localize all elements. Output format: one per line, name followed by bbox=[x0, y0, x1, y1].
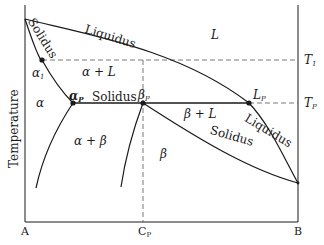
alpha-solvus-curve bbox=[36, 103, 73, 188]
peritectic-solidus-label: Solidus bbox=[92, 91, 137, 103]
alpha-plus-liquid-label: α + L bbox=[82, 66, 116, 78]
betaP-label: βP bbox=[138, 89, 150, 103]
alpha-plus-beta-label: α + β bbox=[74, 135, 107, 147]
x-tick-Cp: CP bbox=[138, 226, 151, 239]
beta-plus-liquid-label: β + L bbox=[184, 108, 217, 120]
beta-region-label: β bbox=[160, 148, 167, 160]
tp-label: TP bbox=[304, 97, 317, 111]
alpha1-label: α1 bbox=[32, 67, 45, 81]
y-axis-label: Temperature bbox=[8, 89, 20, 168]
LP-label: LP bbox=[253, 89, 266, 103]
beta-solvus-curve bbox=[121, 103, 143, 187]
alpha1-point bbox=[39, 57, 44, 62]
LP-point bbox=[246, 100, 251, 105]
liquid-region-label: L bbox=[211, 29, 219, 41]
x-tick-B: B bbox=[294, 226, 302, 237]
alpha-region-label: α bbox=[36, 97, 44, 109]
x-tick-A: A bbox=[21, 226, 29, 237]
alphaP-label: αP bbox=[69, 90, 84, 103]
t1-label: T1 bbox=[304, 54, 316, 68]
clipped-caption bbox=[60, 240, 300, 245]
B-end-point bbox=[297, 182, 300, 185]
